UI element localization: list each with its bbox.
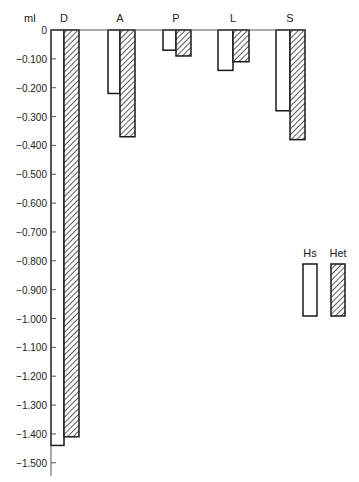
y-axis-label: ml xyxy=(24,12,36,24)
y-tick-label: −1.100 xyxy=(16,342,47,353)
bar-hs-l xyxy=(218,30,233,70)
y-tick-label: −0.400 xyxy=(16,140,47,151)
category-label: L xyxy=(230,12,236,24)
category-label: D xyxy=(60,12,68,24)
y-tick-label: −1.000 xyxy=(16,314,47,325)
category-label: A xyxy=(116,12,124,24)
y-tick-label: −0.100 xyxy=(16,54,47,65)
legend-item-hs: Hs xyxy=(303,247,317,316)
bar-het-l xyxy=(233,30,249,62)
bar-het-a xyxy=(120,30,135,137)
bar-group-s xyxy=(276,30,305,140)
bar-group-l xyxy=(218,30,249,70)
bar-group-d xyxy=(51,30,79,445)
category-label: P xyxy=(172,12,179,24)
y-tick-label: −1.400 xyxy=(16,429,47,440)
y-tick-label: −1.300 xyxy=(16,400,47,411)
y-tick-label: −0.600 xyxy=(16,198,47,209)
category-labels: DAPLS xyxy=(60,12,294,24)
bar-het-p xyxy=(176,30,191,56)
y-tick-label: −1.500 xyxy=(16,458,47,469)
bar-hs-s xyxy=(276,30,290,111)
y-tick-label: −0.200 xyxy=(16,83,47,94)
y-tick-label: −1.200 xyxy=(16,371,47,382)
bar-group-p xyxy=(163,30,191,56)
y-tick-label: −0.700 xyxy=(16,227,47,238)
legend-label: Het xyxy=(329,247,346,259)
bar-hs-a xyxy=(108,30,120,93)
legend-swatch xyxy=(331,264,345,316)
y-tick-label: 0 xyxy=(41,25,47,36)
y-tick-label: −0.500 xyxy=(16,169,47,180)
y-tick-label: −0.900 xyxy=(16,285,47,296)
category-label: S xyxy=(286,12,293,24)
legend-label: Hs xyxy=(303,247,317,259)
bar-chart: ml DAPLS 0−0.100−0.200−0.300−0.400−0.500… xyxy=(0,0,359,482)
legend: HsHet xyxy=(303,247,347,316)
bar-hs-d xyxy=(51,30,64,445)
bar-het-s xyxy=(290,30,305,140)
bar-het-d xyxy=(64,30,79,437)
bar-hs-p xyxy=(163,30,176,50)
legend-item-het: Het xyxy=(329,247,346,316)
y-tick-label: −0.300 xyxy=(16,112,47,123)
y-tick-label: −0.800 xyxy=(16,256,47,267)
bar-group-a xyxy=(108,30,135,137)
legend-swatch xyxy=(303,264,317,316)
bars xyxy=(51,30,305,445)
